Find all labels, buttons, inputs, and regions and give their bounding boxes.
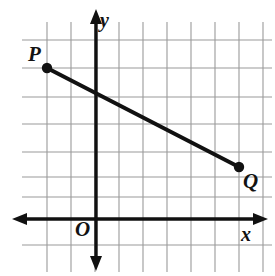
grid-horizontal-lines — [22, 40, 272, 245]
x-axis-left-arrow-icon — [12, 213, 27, 225]
point-label-p: P — [28, 44, 41, 65]
point-label-q: Q — [243, 171, 258, 192]
y-axis-down-arrow-icon — [90, 256, 102, 271]
graph-canvas — [0, 0, 275, 276]
y-axis-label: y — [100, 10, 109, 30]
coordinate-plane-figure: P Q O x y — [0, 0, 275, 276]
x-axis-right-arrow-icon — [253, 213, 268, 225]
x-axis — [12, 213, 268, 225]
origin-label: O — [75, 219, 90, 240]
x-axis-label: x — [241, 224, 251, 244]
y-axis — [90, 9, 102, 271]
point-marker-p — [42, 63, 52, 73]
